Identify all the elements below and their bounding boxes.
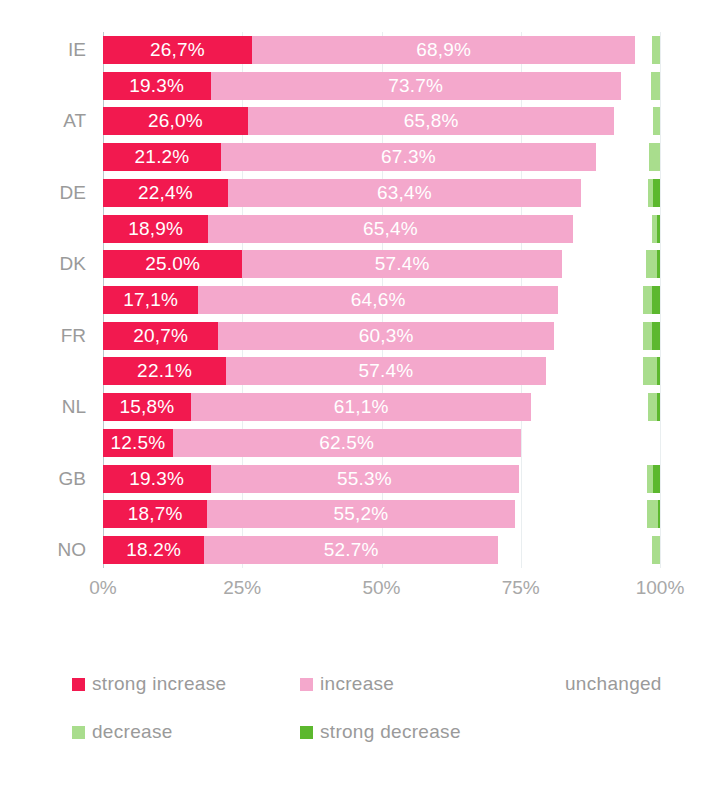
legend-swatch-icon xyxy=(545,678,558,691)
bar-segment-strong-increase: 19.3% xyxy=(103,72,211,100)
x-tick-label-25: 25% xyxy=(223,577,261,599)
bar-value-label: 64,6% xyxy=(351,289,406,311)
legend-label: decrease xyxy=(92,721,173,743)
bar-value-label: 62.5% xyxy=(319,432,374,454)
bar-segment-unchanged xyxy=(596,143,649,171)
bar-segment-decrease xyxy=(643,322,652,350)
bar-value-label: 52.7% xyxy=(324,539,379,561)
x-tick-label-0: 0% xyxy=(89,577,116,599)
bar-value-label: 57.4% xyxy=(375,253,430,275)
bar-segment-strong-decrease xyxy=(653,179,660,207)
bar-row: 12.5%62.5% xyxy=(103,429,660,457)
bar-segment-strong-decrease xyxy=(657,215,660,243)
bar-segment-strong-increase: 12.5% xyxy=(103,429,173,457)
x-tick-label-75: 75% xyxy=(502,577,540,599)
bar-value-label: 15,8% xyxy=(120,396,175,418)
legend-label: strong increase xyxy=(92,673,226,695)
bar-segment-unchanged xyxy=(573,215,652,243)
stacked-bar-chart: IEATDEDKFRNLGBNO 26,7%68,9%19.3%73.7%26,… xyxy=(0,0,724,799)
bar-value-label: 65,4% xyxy=(363,218,418,240)
legend-item-increase[interactable]: increase xyxy=(300,660,394,708)
bar-segment-strong-decrease xyxy=(652,322,660,350)
bar-segment-unchanged xyxy=(546,357,643,385)
bar-value-label: 19.3% xyxy=(129,75,184,97)
bar-segment-increase: 55.3% xyxy=(211,465,519,493)
scan-residue xyxy=(0,786,724,796)
bar-value-label: 26,7% xyxy=(150,39,205,61)
bar-segment-increase: 68,9% xyxy=(252,36,636,64)
bar-segment-increase: 52.7% xyxy=(204,536,498,564)
bar-segment-strong-increase: 25.0% xyxy=(103,250,242,278)
bar-segment-unchanged xyxy=(531,393,648,421)
bar-segment-increase: 57.4% xyxy=(242,250,562,278)
bar-segment-decrease xyxy=(643,357,656,385)
bar-segment-unchanged xyxy=(581,179,648,207)
bar-value-label: 19.3% xyxy=(129,468,184,490)
legend-item-strong-decrease[interactable]: strong decrease xyxy=(300,708,461,756)
category-label-IE: IE xyxy=(2,36,86,64)
bar-segment-strong-decrease xyxy=(658,500,660,528)
bar-segment-increase: 65,8% xyxy=(248,107,615,135)
bar-value-label: 55.3% xyxy=(337,468,392,490)
legend-item-strong-increase[interactable]: strong increase xyxy=(72,660,226,708)
bar-value-label: 12.5% xyxy=(110,432,165,454)
bar-value-label: 22.1% xyxy=(137,360,192,382)
bar-segment-strong-increase: 20,7% xyxy=(103,322,218,350)
bar-row: 18,7%55,2% xyxy=(103,500,660,528)
bar-value-label: 25.0% xyxy=(145,253,200,275)
category-label-NL: NL xyxy=(2,393,86,421)
bar-segment-increase: 62.5% xyxy=(173,429,521,457)
bar-segment-strong-increase: 26,0% xyxy=(103,107,248,135)
bar-segment-decrease xyxy=(652,36,660,64)
bar-segment-unchanged xyxy=(621,72,651,100)
bar-segment-unchanged xyxy=(558,286,643,314)
x-tick-label-100: 100% xyxy=(636,577,685,599)
bar-segment-strong-increase: 22,4% xyxy=(103,179,228,207)
bar-row: 22,4%63,4% xyxy=(103,179,660,207)
legend-swatch-icon xyxy=(72,726,85,739)
bar-segment-strong-decrease xyxy=(657,393,660,421)
bar-segment-unchanged xyxy=(519,465,647,493)
bar-row: 19.3%55.3% xyxy=(103,465,660,493)
bar-value-label: 26,0% xyxy=(148,110,203,132)
bar-segment-strong-increase: 26,7% xyxy=(103,36,252,64)
gridline-100 xyxy=(660,32,661,568)
bar-row: 18,9%65,4% xyxy=(103,215,660,243)
bar-segment-increase: 67.3% xyxy=(221,143,596,171)
bar-segment-decrease xyxy=(652,536,660,564)
legend-swatch-icon xyxy=(300,678,313,691)
bar-segment-unchanged xyxy=(498,536,652,564)
bar-segment-strong-increase: 19.3% xyxy=(103,465,211,493)
bar-segment-increase: 64,6% xyxy=(198,286,558,314)
bar-value-label: 21.2% xyxy=(135,146,190,168)
bar-segment-decrease xyxy=(653,107,660,135)
bar-row: 19.3%73.7% xyxy=(103,72,660,100)
category-label-GB: GB xyxy=(2,465,86,493)
bar-segment-strong-decrease xyxy=(657,250,660,278)
chart-legend: strong increaseincreaseunchangeddecrease… xyxy=(0,660,724,756)
bar-segment-unchanged xyxy=(515,500,647,528)
x-tick-label-50: 50% xyxy=(362,577,400,599)
legend-label: unchanged xyxy=(565,673,662,695)
bar-value-label: 73.7% xyxy=(388,75,443,97)
bar-value-label: 68,9% xyxy=(416,39,471,61)
bar-segment-decrease xyxy=(646,250,657,278)
bar-value-label: 63,4% xyxy=(377,182,432,204)
bar-segment-decrease xyxy=(647,500,659,528)
bar-row: 21.2%67.3% xyxy=(103,143,660,171)
bar-segment-increase: 65,4% xyxy=(208,215,572,243)
bar-value-label: 55,2% xyxy=(333,503,388,525)
legend-row: strong increaseincreaseunchanged xyxy=(0,660,724,708)
bar-segment-unchanged xyxy=(635,36,652,64)
bar-segment-strong-increase: 21.2% xyxy=(103,143,221,171)
category-label-DK: DK xyxy=(2,250,86,278)
legend-label: increase xyxy=(320,673,394,695)
bar-segment-strong-increase: 18.2% xyxy=(103,536,204,564)
legend-label: strong decrease xyxy=(320,721,461,743)
bar-segment-unchanged xyxy=(614,107,653,135)
bar-segment-strong-decrease xyxy=(653,465,660,493)
legend-item-decrease[interactable]: decrease xyxy=(72,708,173,756)
legend-swatch-icon xyxy=(72,678,85,691)
legend-item-unchanged[interactable]: unchanged xyxy=(545,660,662,708)
bar-value-label: 60,3% xyxy=(359,325,414,347)
